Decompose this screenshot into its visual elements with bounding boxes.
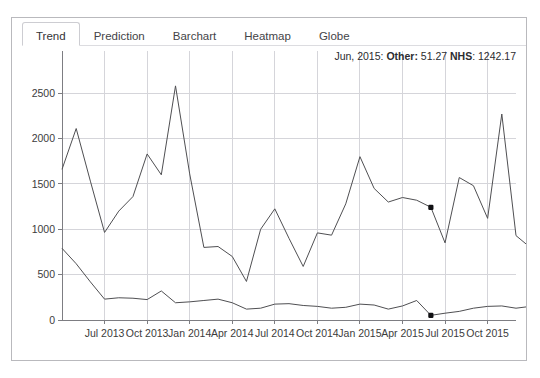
tab-trend[interactable]: Trend — [22, 22, 80, 46]
readout-nhs-label: NHS — [450, 50, 472, 62]
tab-barchart[interactable]: Barchart — [159, 22, 230, 46]
x-axis-label: Jul 2014 — [255, 327, 295, 339]
y-axis-label: 1000 — [32, 223, 56, 235]
x-axis-label: Oct 2015 — [466, 327, 509, 339]
series-line-other — [62, 248, 526, 315]
x-axis-label: Jul 2013 — [85, 327, 125, 339]
x-axis-label: Jan 2014 — [168, 327, 211, 339]
trend-panel: Trend Prediction Barchart Heatmap Globe … — [11, 17, 527, 361]
readout-other-label: Other: — [386, 50, 418, 62]
x-axis-label: Jan 2015 — [338, 327, 381, 339]
readout-nhs-colon: : — [472, 50, 475, 62]
hover-readout: Jun, 2015: Other: 51.27 NHS: 1242.17 — [334, 50, 516, 62]
x-axis-label: Jul 2015 — [425, 327, 465, 339]
tab-heatmap[interactable]: Heatmap — [230, 22, 305, 46]
y-axis-label: 2500 — [32, 87, 56, 99]
x-axis-label: Apr 2015 — [381, 327, 424, 339]
clipped-top-text — [0, 0, 540, 10]
tab-bar-underline — [22, 45, 526, 46]
y-axis-label: 500 — [37, 268, 55, 280]
x-axis-label: Oct 2013 — [126, 327, 169, 339]
highlight-marker-nhs[interactable] — [428, 205, 433, 210]
y-axis-label: 0 — [49, 314, 55, 326]
tab-globe[interactable]: Globe — [305, 22, 364, 46]
tab-prediction[interactable]: Prediction — [80, 22, 159, 46]
chart-container: Jun, 2015: Other: 51.27 NHS: 1242.17 050… — [12, 46, 526, 360]
y-axis-label: 2000 — [32, 132, 56, 144]
tab-bar: Trend Prediction Barchart Heatmap Globe — [12, 18, 526, 46]
y-axis-label: 1500 — [32, 178, 56, 190]
trend-line-chart[interactable]: 05001000150020002500Jul 2013Oct 2013Jan … — [12, 46, 526, 361]
readout-other-value: 51.27 — [421, 50, 447, 62]
x-axis-label: Oct 2014 — [296, 327, 339, 339]
x-axis-label: Apr 2014 — [211, 327, 254, 339]
readout-date: Jun, 2015: — [334, 50, 383, 62]
highlight-marker-other[interactable] — [428, 313, 433, 318]
readout-nhs-value: 1242.17 — [478, 50, 516, 62]
